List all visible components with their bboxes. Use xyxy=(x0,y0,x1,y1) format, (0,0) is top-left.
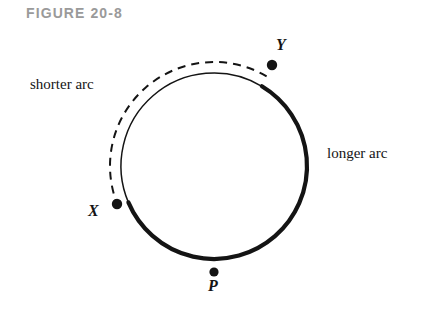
figure-container: FIGURE 20-8 shorter arc longer arc X Y P xyxy=(0,0,431,314)
point-label-p: P xyxy=(208,277,218,295)
point-marker-x xyxy=(112,199,122,209)
point-marker-p xyxy=(209,267,218,276)
shorter-arc-label: shorter arc xyxy=(30,76,94,93)
point-label-x: X xyxy=(88,202,99,220)
point-marker-y xyxy=(267,60,277,70)
dashed-shorter-arc xyxy=(110,62,268,207)
point-label-y: Y xyxy=(276,36,286,54)
shorter-arc-path xyxy=(121,73,262,202)
longer-arc-label: longer arc xyxy=(327,145,387,162)
longer-arc-path xyxy=(128,86,307,259)
